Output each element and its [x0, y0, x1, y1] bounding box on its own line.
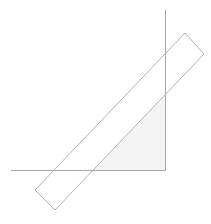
- diagram-canvas: [0, 0, 211, 224]
- tilted-rectangle: [35, 33, 204, 210]
